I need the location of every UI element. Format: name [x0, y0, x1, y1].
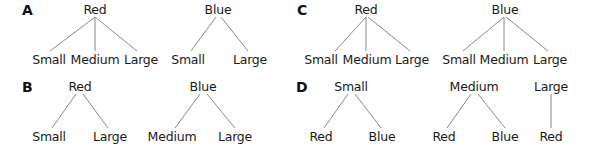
tree-child: Blue — [369, 130, 396, 144]
panel-c: C Red Small Medium Large Blue Small Medi… — [295, 0, 590, 77]
tree-root: Red — [354, 3, 377, 17]
panel-b: B Red Small Large Blue Medium Large — [0, 77, 295, 154]
tree-child: Red — [309, 130, 332, 144]
tree-child: Large — [395, 53, 429, 67]
panel-label: A — [22, 3, 33, 17]
tree-root: Red — [83, 3, 106, 17]
tree-child: Small — [32, 53, 66, 67]
tree-root: Blue — [190, 80, 217, 94]
tree-child: Medium — [71, 53, 120, 67]
panel-label: D — [296, 80, 308, 94]
tree-child: Medium — [343, 53, 392, 67]
tree-child: Large — [233, 53, 267, 67]
tree-child: Large — [218, 130, 252, 144]
tree-child: Large — [124, 53, 158, 67]
tree-child: Small — [442, 53, 476, 67]
panel-d: D Small Red Blue Medium Red Blue Large R… — [295, 77, 590, 154]
panel-a: A Red Small Medium Large Blue Small Larg… — [0, 0, 295, 77]
tree-child: Large — [533, 53, 567, 67]
panel-label: C — [297, 3, 307, 17]
tree-child: Blue — [492, 130, 519, 144]
panel-label: B — [22, 80, 33, 94]
tree-root: Large — [534, 80, 568, 94]
tree-child: Red — [539, 130, 562, 144]
tree-root: Medium — [450, 80, 499, 94]
tree-child: Red — [432, 130, 455, 144]
tree-child: Medium — [148, 130, 197, 144]
tree-child: Small — [304, 53, 338, 67]
tree-root: Blue — [492, 3, 519, 17]
tree-root: Red — [68, 80, 91, 94]
tree-child: Small — [32, 130, 66, 144]
tree-child: Medium — [480, 53, 529, 67]
tree-root: Blue — [205, 3, 232, 17]
tree-root: Small — [334, 80, 368, 94]
tree-child: Large — [93, 130, 127, 144]
tree-child: Small — [171, 53, 205, 67]
